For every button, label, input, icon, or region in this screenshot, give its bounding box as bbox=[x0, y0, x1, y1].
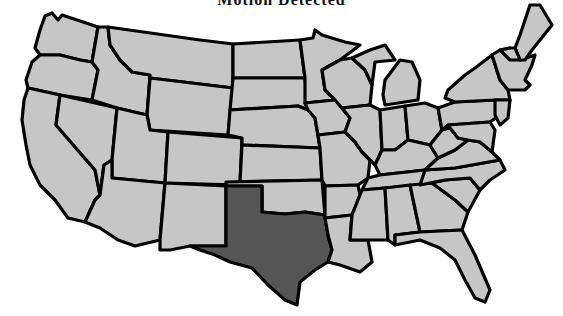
state-nj bbox=[495, 100, 510, 125]
state-ne bbox=[228, 106, 320, 148]
state-ks bbox=[240, 145, 322, 182]
state-co bbox=[165, 132, 242, 185]
state-wy bbox=[147, 78, 233, 135]
state-mil bbox=[383, 60, 420, 105]
state-nd bbox=[233, 40, 305, 78]
state-fl bbox=[395, 230, 490, 302]
state-nm bbox=[160, 183, 226, 250]
state-me bbox=[515, 5, 552, 60]
us-map bbox=[0, 0, 563, 316]
